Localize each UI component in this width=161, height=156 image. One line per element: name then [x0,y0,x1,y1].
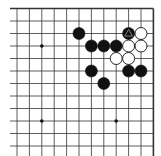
black-stone [123,28,135,40]
white-stone [110,53,122,65]
white-stone [135,40,147,52]
black-stone [85,40,97,52]
star-point [40,44,44,48]
black-stone [135,65,147,77]
black-stone [85,65,97,77]
black-stone [98,40,110,52]
star-point [114,119,118,123]
go-board [0,0,161,156]
black-stone [73,28,85,40]
white-stone [123,53,135,65]
white-stone [123,40,135,52]
black-stone [110,40,122,52]
black-stone [123,65,135,77]
white-stone [135,28,147,40]
black-stone [98,78,110,90]
star-point [40,119,44,123]
